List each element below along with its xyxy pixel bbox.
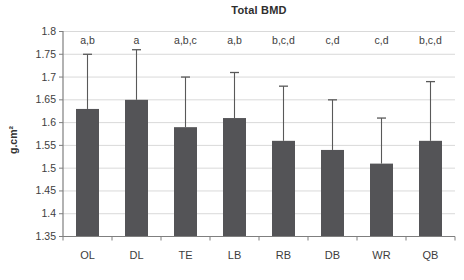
sig-label-RB: b,c,d	[272, 34, 295, 46]
y-tick-label-1.35: 1.35	[36, 230, 57, 242]
x-tick-label-TE: TE	[178, 249, 192, 261]
x-tick-label-DL: DL	[129, 249, 143, 261]
bar-TE	[174, 127, 197, 236]
chart-title: Total BMD	[63, 4, 455, 16]
bar-OL	[76, 109, 99, 237]
sig-label-WR: c,d	[374, 34, 388, 46]
sig-label-QB: b,c,d	[419, 34, 442, 46]
y-tick-label-1.55: 1.55	[36, 139, 57, 151]
sig-label-DL: a	[134, 34, 140, 46]
bar-chart-figure: Total BMD g.cm² a,bOLaDLa,b,cTEa,bLBb,c,…	[0, 0, 464, 280]
y-tick-label-1.7: 1.7	[41, 71, 56, 83]
x-tick-label-LB: LB	[228, 249, 241, 261]
y-tick-label-1.8: 1.8	[41, 25, 56, 37]
y-tick-label-1.4: 1.4	[41, 207, 56, 219]
x-tick-label-WR: WR	[372, 249, 390, 261]
y-axis-title: g.cm²	[7, 109, 21, 171]
sig-label-DB: c,d	[325, 34, 339, 46]
y-tick-label-1.5: 1.5	[41, 162, 56, 174]
y-tick-label-1.65: 1.65	[36, 93, 57, 105]
bar-QB	[419, 141, 442, 237]
sig-label-TE: a,b,c	[174, 34, 197, 46]
x-tick-label-QB: QB	[423, 249, 439, 261]
y-tick-label-1.45: 1.45	[36, 184, 57, 196]
bar-RB	[272, 141, 295, 237]
x-tick-label-DB: DB	[325, 249, 340, 261]
sig-label-LB: a,b	[227, 34, 242, 46]
plot-area: a,bOLaDLa,b,cTEa,bLBb,c,dRBc,dDBc,dWRb,c…	[0, 0, 464, 280]
bar-LB	[223, 118, 246, 236]
x-tick-label-OL: OL	[80, 249, 95, 261]
sig-label-OL: a,b	[80, 34, 95, 46]
bar-DL	[125, 100, 148, 237]
y-tick-label-1.75: 1.75	[36, 48, 57, 60]
x-tick-label-RB: RB	[276, 249, 291, 261]
bar-DB	[321, 150, 344, 237]
bar-WR	[370, 164, 393, 237]
y-tick-label-1.6: 1.6	[41, 116, 56, 128]
